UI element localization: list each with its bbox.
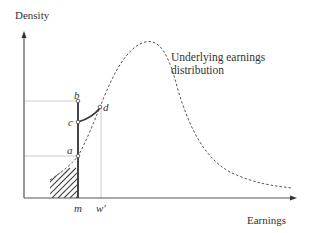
y-axis-arrow-icon: [22, 31, 27, 38]
earnings-density-diagram: Density Earnings Underlying earnings dis…: [0, 0, 310, 233]
x-axis-arrow-icon: [290, 196, 297, 201]
curve-label: Underlying earnings distribution: [171, 51, 281, 77]
x-axis-label: Earnings: [247, 215, 286, 226]
tick-m-label: m: [74, 203, 82, 214]
point-c-marker: [76, 120, 80, 124]
point-a-label: a: [67, 145, 73, 156]
diagram-canvas: [0, 0, 310, 233]
y-axis-label: Density: [15, 10, 49, 21]
point-a-marker: [76, 154, 80, 158]
tick-w-prime-label: w': [96, 203, 106, 214]
point-b-label: b: [74, 90, 80, 101]
point-c-label: c: [68, 117, 73, 128]
point-d-marker: [98, 105, 102, 109]
point-d-label: d: [103, 102, 109, 113]
guide-lines: [24, 101, 101, 198]
hatched-area: [34, 168, 106, 198]
